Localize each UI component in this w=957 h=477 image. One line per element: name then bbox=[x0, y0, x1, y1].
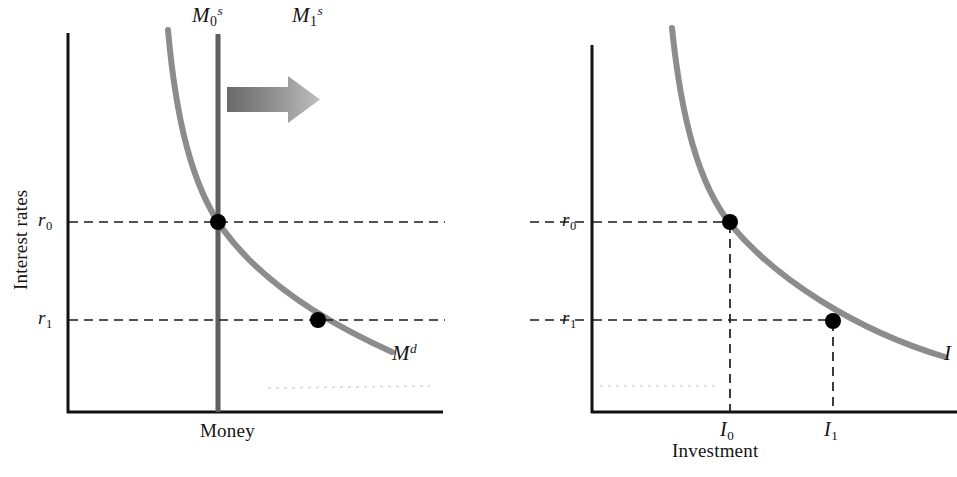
tick-label-r0-right-sub: 0 bbox=[570, 219, 576, 233]
supply-shift-arrow-icon bbox=[227, 76, 320, 123]
tick-label-i0-base: I bbox=[720, 418, 727, 440]
tick-label-r1-right-sub: 1 bbox=[570, 317, 576, 331]
tick-label-i1-sub: 1 bbox=[831, 428, 838, 443]
left-panel-money-market bbox=[67, 30, 445, 413]
label-md-sup: d bbox=[410, 341, 417, 356]
investment-point-p1 bbox=[825, 313, 841, 329]
tick-label-r1-left-base: r bbox=[38, 307, 45, 328]
tick-label-i1: I1 bbox=[824, 418, 838, 444]
tick-label-r1-right-base: r bbox=[562, 307, 569, 328]
label-ms0-sup: s bbox=[217, 3, 222, 18]
equilibrium-point-e1 bbox=[310, 312, 326, 328]
label-md-base: M bbox=[392, 341, 410, 365]
left-x-axis-title: Money bbox=[200, 420, 255, 442]
label-investment-curve: I bbox=[944, 341, 951, 366]
equilibrium-point-e0 bbox=[210, 214, 226, 230]
money-demand-curve bbox=[168, 30, 392, 352]
tick-label-r0-right-base: r bbox=[562, 209, 569, 230]
diagram-canvas bbox=[0, 0, 957, 477]
label-ms1: M1s bbox=[292, 3, 323, 30]
scan-artifact bbox=[268, 386, 430, 388]
label-md: Md bbox=[392, 341, 417, 366]
economics-figure: Interest rates Money M0s M1s Md r0 r1 r0… bbox=[0, 0, 957, 477]
label-ms0-sub: 0 bbox=[210, 14, 217, 29]
left-y-axis-title: Interest rates bbox=[10, 190, 32, 290]
tick-label-r1-right: r1 bbox=[562, 307, 576, 332]
label-ms1-sub: 1 bbox=[310, 14, 317, 29]
tick-label-r1-left: r1 bbox=[38, 307, 52, 332]
label-ms0-base: M bbox=[192, 3, 210, 27]
label-ms0: M0s bbox=[192, 3, 223, 30]
label-ms1-sup: s bbox=[317, 3, 322, 18]
right-x-axis-title: Investment bbox=[672, 440, 758, 462]
tick-label-i1-base: I bbox=[824, 418, 831, 440]
investment-demand-curve bbox=[672, 28, 945, 357]
investment-point-p0 bbox=[722, 214, 738, 230]
tick-label-r0-left-base: r bbox=[38, 209, 45, 230]
tick-label-r0-right: r0 bbox=[562, 209, 576, 234]
tick-label-r0-left: r0 bbox=[38, 209, 52, 234]
right-panel-investment-demand bbox=[530, 28, 957, 413]
label-ms1-base: M bbox=[292, 3, 310, 27]
tick-label-r1-left-sub: 1 bbox=[46, 317, 52, 331]
label-investment-curve-base: I bbox=[944, 341, 951, 365]
tick-label-r0-left-sub: 0 bbox=[46, 219, 52, 233]
